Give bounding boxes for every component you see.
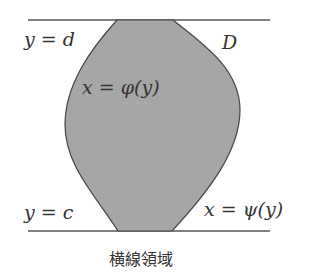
label-y-equals-c: y = c [24, 203, 73, 222]
label-region-d: D [222, 33, 237, 52]
label-right-curve: x = ψ(y) [204, 200, 283, 219]
label-left-curve: x = φ(y) [82, 78, 160, 97]
label-y-equals-d: y = d [24, 30, 75, 49]
caption: 横線領域 [109, 252, 173, 268]
